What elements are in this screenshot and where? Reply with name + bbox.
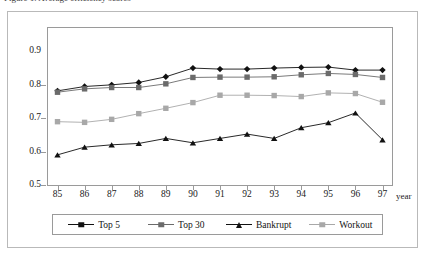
data-point <box>298 64 304 70</box>
legend-label: Bankrupt <box>256 220 291 230</box>
data-point <box>190 75 195 80</box>
data-point <box>380 75 385 80</box>
legend-marker <box>236 222 242 228</box>
data-point <box>352 110 358 115</box>
x-tick-label: 87 <box>99 190 125 200</box>
legend-marker <box>158 222 164 228</box>
data-point <box>271 93 276 98</box>
data-point <box>55 119 60 124</box>
data-point <box>109 85 114 90</box>
data-point <box>163 106 168 111</box>
data-point <box>299 72 304 77</box>
data-point <box>54 152 60 157</box>
data-point <box>82 120 87 125</box>
series-line <box>58 113 383 155</box>
plot-inner <box>48 28 392 185</box>
chart-legend: Top 5Top 30BankruptWorkout <box>52 214 383 235</box>
legend-item-workout[interactable]: Workout <box>300 220 382 230</box>
x-tick-mark <box>58 186 59 190</box>
data-point <box>217 74 222 79</box>
data-point <box>325 64 331 70</box>
x-axis-title: year <box>396 191 412 201</box>
x-tick-label: 94 <box>288 190 314 200</box>
legend-marker <box>320 222 326 228</box>
series-bankrupt <box>54 110 385 157</box>
data-point <box>217 93 222 98</box>
data-point <box>353 72 358 77</box>
legend-label: Top 30 <box>178 220 205 230</box>
data-point <box>326 71 331 76</box>
data-point <box>136 79 142 85</box>
x-tick-mark <box>85 186 86 190</box>
legend-item-top-30[interactable]: Top 30 <box>135 220 217 230</box>
series-top-30 <box>55 71 385 95</box>
diamond-marker <box>68 220 94 230</box>
data-point <box>299 94 304 99</box>
x-tick-label: 85 <box>45 190 71 200</box>
x-tick-label: 92 <box>234 190 260 200</box>
legend-item-bankrupt[interactable]: Bankrupt <box>218 220 300 230</box>
data-point <box>353 91 358 96</box>
y-tick-mark <box>41 118 46 119</box>
data-point <box>55 90 60 95</box>
x-tick-mark <box>139 186 140 190</box>
x-tick-mark <box>112 186 113 190</box>
x-tick-label: 90 <box>180 190 206 200</box>
data-point <box>379 67 385 73</box>
data-point <box>217 66 223 72</box>
x-tick-label: 88 <box>126 190 152 200</box>
x-tick-mark <box>247 186 248 190</box>
y-tick-mark <box>41 152 46 153</box>
x-tick-label: 91 <box>207 190 233 200</box>
data-point <box>163 81 168 86</box>
data-point <box>190 65 196 71</box>
data-point <box>244 93 249 98</box>
data-point <box>190 100 195 105</box>
square-marker <box>148 220 174 230</box>
data-point <box>271 65 277 71</box>
data-point <box>244 74 249 79</box>
x-tick-label: 89 <box>153 190 179 200</box>
x-tick-mark <box>355 186 356 190</box>
x-tick-mark <box>166 186 167 190</box>
triangle-marker <box>226 220 252 230</box>
data-point <box>163 74 169 80</box>
x-tick-mark <box>328 186 329 190</box>
x-tick-label: 97 <box>370 190 396 200</box>
x-tick-label: 96 <box>342 190 368 200</box>
y-tick-mark <box>41 185 46 186</box>
x-tick-label: 86 <box>72 190 98 200</box>
x-tick-label: 95 <box>315 190 341 200</box>
data-point <box>244 66 250 72</box>
legend-marker <box>78 222 84 228</box>
x-tick-mark <box>220 186 221 190</box>
x-tick-label: 93 <box>261 190 287 200</box>
plot-area <box>47 27 393 186</box>
square-marker <box>309 220 335 230</box>
data-point <box>82 86 87 91</box>
legend-label: Workout <box>339 220 372 230</box>
data-point <box>136 85 141 90</box>
legend-item-top-5[interactable]: Top 5 <box>53 220 135 230</box>
data-point <box>136 111 141 116</box>
x-tick-mark <box>301 186 302 190</box>
data-point <box>326 90 331 95</box>
data-point <box>380 100 385 105</box>
series-layer <box>48 28 392 185</box>
x-tick-mark <box>193 186 194 190</box>
legend-label: Top 5 <box>98 220 120 230</box>
data-point <box>109 117 114 122</box>
x-tick-mark <box>274 186 275 190</box>
x-tick-mark <box>383 186 384 190</box>
data-point <box>271 74 276 79</box>
y-tick-mark <box>41 85 46 86</box>
